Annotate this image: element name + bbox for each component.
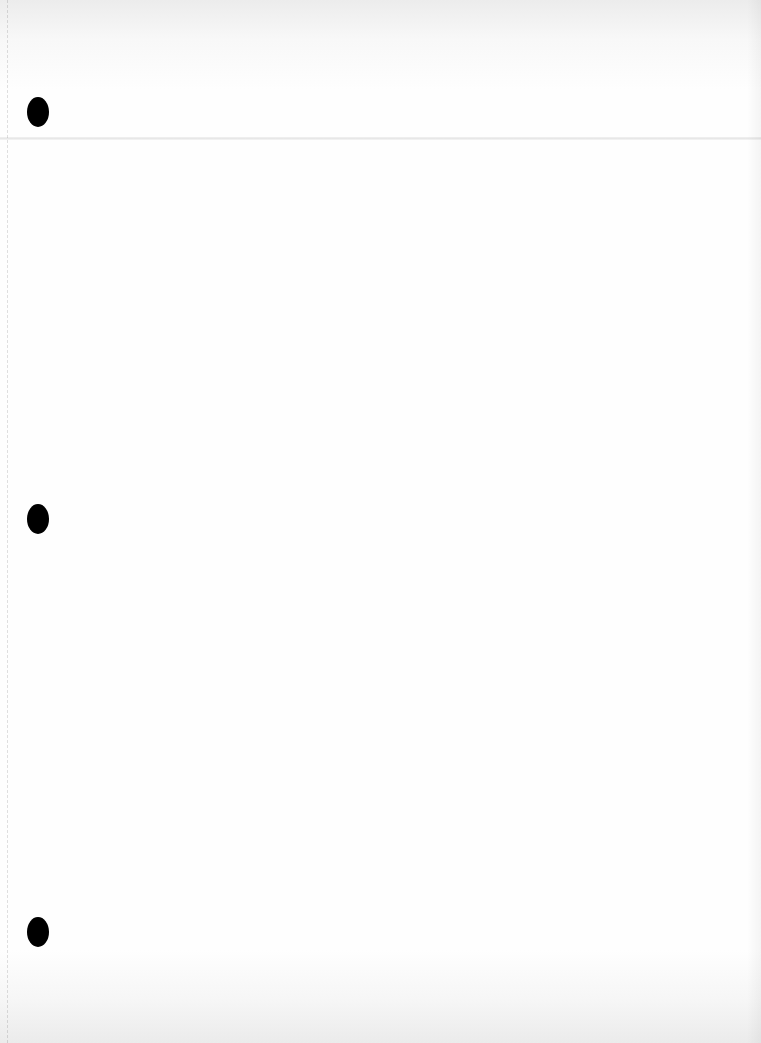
fold-line: [0, 137, 761, 140]
scanned-page: [0, 0, 761, 1043]
left-margin-line: [7, 0, 8, 1043]
punch-hole-bottom: [27, 917, 49, 947]
punch-hole-top: [27, 97, 49, 127]
punch-hole-middle: [27, 504, 49, 534]
page-edge-shadow: [747, 0, 761, 1043]
